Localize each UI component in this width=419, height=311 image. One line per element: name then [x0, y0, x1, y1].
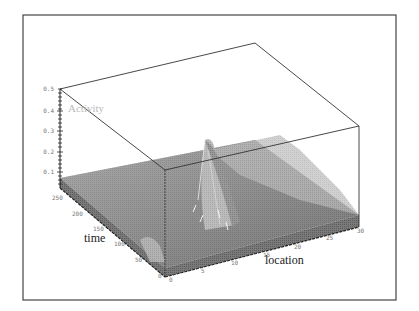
time-tick-label: 250	[52, 194, 63, 201]
location-tick-label: 0	[169, 276, 173, 283]
location-tick-label: 5	[201, 267, 205, 274]
z-axis-title: Activity	[68, 102, 105, 114]
location-tick-label: 30	[357, 227, 365, 234]
z-tick-label: 0.4	[43, 107, 54, 114]
z-tick-label: 0.3	[43, 127, 54, 134]
time-axis-title: time	[84, 231, 105, 245]
time-tick-label: 200	[72, 210, 83, 217]
z-tick-label: 0.2	[43, 148, 54, 155]
z-tick-label: 0.1	[43, 168, 54, 175]
location-tick-label: 10	[231, 259, 239, 266]
time-tick-label: 50	[135, 256, 143, 263]
z-tick-label: 0.5	[43, 85, 54, 92]
time-tick-label: 100	[114, 240, 125, 247]
location-tick-label: 25	[326, 234, 334, 241]
location-axis-title: location	[265, 253, 304, 267]
location-tick-label: 20	[294, 243, 302, 250]
time-tick-label: 0	[158, 272, 162, 279]
surface-plot: 0.5 0.4 0.3 0.2 0.1 Activity 250 200 150…	[0, 0, 419, 311]
